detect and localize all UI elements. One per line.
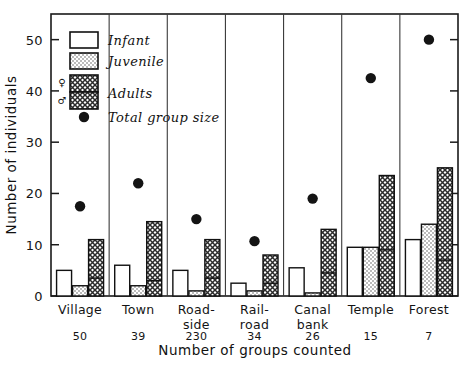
legend-label-juvenile: Juvenile bbox=[105, 54, 164, 69]
x-axis-title: Number of groups counted bbox=[158, 342, 351, 358]
category-label: Town bbox=[121, 302, 155, 317]
bar-adults-forest bbox=[437, 168, 452, 296]
bar-infant-rail-road bbox=[231, 283, 246, 296]
bar-infant-canal-bank bbox=[289, 268, 304, 296]
total-group-size-marker bbox=[75, 201, 85, 211]
male-symbol-icon: ♂ bbox=[58, 95, 67, 106]
total-group-size-marker bbox=[424, 34, 434, 44]
category-labels: VillageTownRoad-sideRail-roadCanalbankTe… bbox=[58, 302, 449, 332]
y-axis-title: Number of individuals bbox=[3, 76, 19, 235]
legend-swatch-infant bbox=[70, 32, 98, 48]
legend-label-infant: Infant bbox=[107, 33, 150, 48]
bar-infant-forest bbox=[405, 240, 420, 296]
total-group-size-marker bbox=[366, 73, 376, 83]
category-label: Forest bbox=[409, 302, 449, 317]
chart-figure: 01020304050 VillageTownRoad-sideRail-roa… bbox=[0, 0, 474, 375]
bar-infant-village bbox=[57, 270, 72, 296]
bar-infant-town bbox=[115, 265, 130, 296]
bar-adults-rail-road bbox=[263, 255, 278, 296]
bar-juvenile-temple bbox=[363, 247, 378, 296]
bar-infant-road-side bbox=[173, 270, 188, 296]
category-label: Village bbox=[58, 302, 102, 317]
y-tick-label: 40 bbox=[26, 84, 43, 99]
bar-adults-temple bbox=[379, 176, 394, 296]
groups-counted-value: 39 bbox=[131, 330, 146, 343]
category-label: Temple bbox=[347, 302, 394, 317]
y-tick-label: 30 bbox=[26, 135, 43, 150]
female-symbol-icon: ♀ bbox=[58, 77, 65, 88]
bar-adults-road-side bbox=[205, 240, 220, 296]
total-group-size-marker bbox=[307, 193, 317, 203]
groups-counted-value: 15 bbox=[363, 330, 378, 343]
total-group-size-marker bbox=[191, 214, 201, 224]
bar-juvenile-forest bbox=[421, 224, 436, 296]
bar-infant-temple bbox=[347, 247, 362, 296]
bar-juvenile-rail-road bbox=[247, 291, 262, 296]
total-group-size-marker bbox=[249, 236, 259, 246]
legend-swatch-juvenile bbox=[70, 53, 98, 69]
y-tick-label: 10 bbox=[26, 238, 43, 253]
groups-counted-value: 50 bbox=[73, 330, 88, 343]
category-label: Rail- bbox=[240, 302, 269, 317]
bar-adults-village bbox=[89, 240, 104, 296]
total-group-size-marker bbox=[133, 178, 143, 188]
groups-counted-value: 7 bbox=[425, 330, 432, 343]
y-tick-label: 0 bbox=[34, 289, 43, 304]
legend-swatch-adult-female bbox=[70, 75, 98, 92]
category-label: Canal bbox=[294, 302, 331, 317]
legend-swatch-adult-male bbox=[70, 92, 98, 109]
bar-juvenile-village bbox=[73, 286, 88, 296]
bar-adults-canal-bank bbox=[321, 229, 336, 296]
bar-juvenile-road-side bbox=[189, 291, 204, 296]
y-tick-label: 50 bbox=[26, 33, 43, 48]
legend-swatch-total-group-size bbox=[79, 112, 89, 122]
bar-juvenile-canal-bank bbox=[305, 293, 320, 296]
grouped-bar-chart-with-overlay: 01020304050 VillageTownRoad-sideRail-roa… bbox=[0, 0, 474, 375]
legend-label-adults: Adults bbox=[107, 86, 153, 101]
category-label: Road- bbox=[178, 302, 215, 317]
bar-adults-town bbox=[147, 222, 162, 296]
legend-label-total-group-size: Total group size bbox=[108, 110, 220, 125]
y-tick-label: 20 bbox=[26, 186, 43, 201]
bar-juvenile-town bbox=[131, 286, 146, 296]
